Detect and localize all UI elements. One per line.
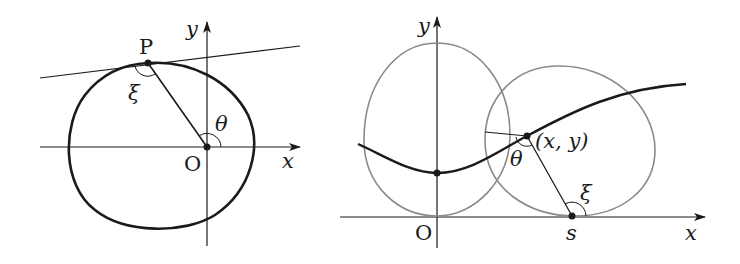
ellipse-figure: P O x y θ ξ [40, 17, 300, 246]
contact-point-dot [569, 213, 576, 220]
label-xi: ξ [128, 81, 141, 105]
label-contact-s: s [566, 221, 577, 245]
label-x-axis: x [282, 149, 294, 173]
label-xi: ξ [580, 181, 593, 205]
normal-line [485, 132, 527, 136]
label-origin: O [184, 152, 201, 176]
diagram-canvas: P O x y θ ξ (x, y) O s x y θ ξ [0, 0, 740, 264]
origin-dot [204, 144, 211, 151]
tangent-line [40, 46, 300, 78]
label-y-axis: y [185, 17, 199, 41]
segment-op [148, 63, 207, 147]
oval-curve [69, 63, 254, 229]
point-xy-dot [524, 133, 531, 140]
point-p-dot [145, 60, 152, 67]
rolling-curve-figure: (x, y) O s x y θ ξ [340, 14, 705, 248]
label-x-axis: x [685, 221, 697, 245]
label-theta: θ [215, 112, 228, 136]
label-origin: O [415, 221, 432, 245]
label-p: P [139, 35, 153, 59]
curve-start-dot [434, 170, 441, 177]
label-y-axis: y [417, 14, 431, 38]
label-theta: θ [510, 147, 523, 171]
label-point-xy: (x, y) [535, 129, 588, 153]
